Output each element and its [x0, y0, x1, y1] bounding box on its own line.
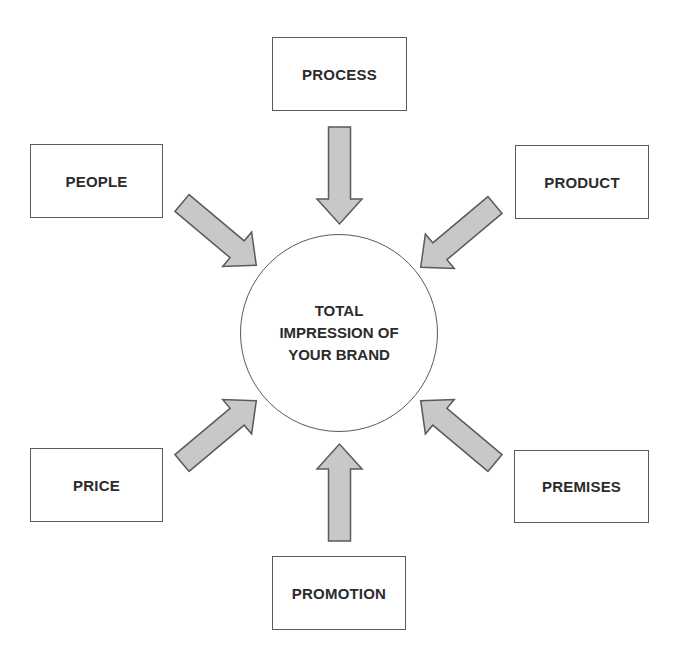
- node-promotion: PROMOTION: [272, 556, 406, 630]
- node-product: PRODUCT: [515, 145, 649, 219]
- node-promotion-label: PROMOTION: [292, 585, 386, 602]
- center-line-3: YOUR BRAND: [288, 344, 390, 366]
- arrow-product-to-center: [406, 188, 509, 285]
- arrow-premises-to-center: [406, 383, 509, 480]
- node-people: PEOPLE: [30, 144, 163, 218]
- arrow-price-to-center: [168, 383, 271, 480]
- center-node-total-impression: TOTAL IMPRESSION OF YOUR BRAND: [240, 234, 438, 432]
- center-line-2: IMPRESSION OF: [279, 322, 398, 344]
- arrow-people-to-center: [168, 186, 271, 283]
- node-premises: PREMISES: [514, 450, 649, 523]
- arrow-promotion-to-center: [317, 444, 362, 541]
- node-people-label: PEOPLE: [65, 173, 127, 190]
- arrow-process-to-center: [317, 127, 362, 224]
- node-price-label: PRICE: [73, 477, 120, 494]
- node-process-label: PROCESS: [302, 66, 377, 83]
- node-product-label: PRODUCT: [544, 174, 620, 191]
- node-price: PRICE: [30, 448, 163, 522]
- center-line-1: TOTAL: [315, 300, 364, 322]
- node-process: PROCESS: [272, 37, 407, 111]
- node-premises-label: PREMISES: [542, 478, 621, 495]
